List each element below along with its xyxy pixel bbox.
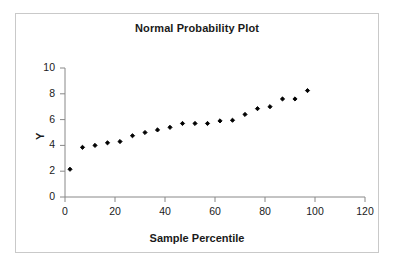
x-axis-title: Sample Percentile — [0, 232, 394, 244]
data-point-1 — [80, 145, 84, 149]
y-tick-label-2: 2 — [33, 164, 55, 176]
data-point-18 — [293, 97, 297, 101]
y-tick-label-0: 0 — [33, 190, 55, 202]
x-tick-label-40: 40 — [145, 205, 185, 217]
data-point-17 — [280, 97, 284, 101]
y-tick-label-10: 10 — [33, 61, 55, 73]
data-point-8 — [168, 125, 172, 129]
x-tick-label-80: 80 — [245, 205, 285, 217]
y-tick-label-6: 6 — [33, 113, 55, 125]
data-point-2 — [93, 143, 97, 147]
data-point-11 — [205, 121, 209, 125]
data-point-13 — [230, 118, 234, 122]
data-point-4 — [118, 139, 122, 143]
data-point-5 — [130, 134, 134, 138]
data-point-16 — [268, 105, 272, 109]
x-tick-label-0: 0 — [45, 205, 85, 217]
data-point-9 — [180, 121, 184, 125]
plot-area — [16, 14, 380, 254]
data-point-14 — [243, 112, 247, 116]
data-point-0 — [68, 167, 72, 171]
data-point-19 — [305, 88, 309, 92]
data-point-12 — [218, 119, 222, 123]
x-tick-label-120: 120 — [345, 205, 385, 217]
chart-frame: Normal Probability Plot Y 02040608010012… — [15, 13, 379, 253]
y-tick-label-4: 4 — [33, 138, 55, 150]
x-tick-label-60: 60 — [195, 205, 235, 217]
data-point-10 — [193, 121, 197, 125]
data-series — [68, 88, 310, 171]
data-point-6 — [143, 130, 147, 134]
data-point-7 — [155, 128, 159, 132]
x-tick-label-20: 20 — [95, 205, 135, 217]
x-tick-label-100: 100 — [295, 205, 335, 217]
data-point-3 — [105, 141, 109, 145]
data-point-15 — [255, 107, 259, 111]
y-tick-label-8: 8 — [33, 87, 55, 99]
